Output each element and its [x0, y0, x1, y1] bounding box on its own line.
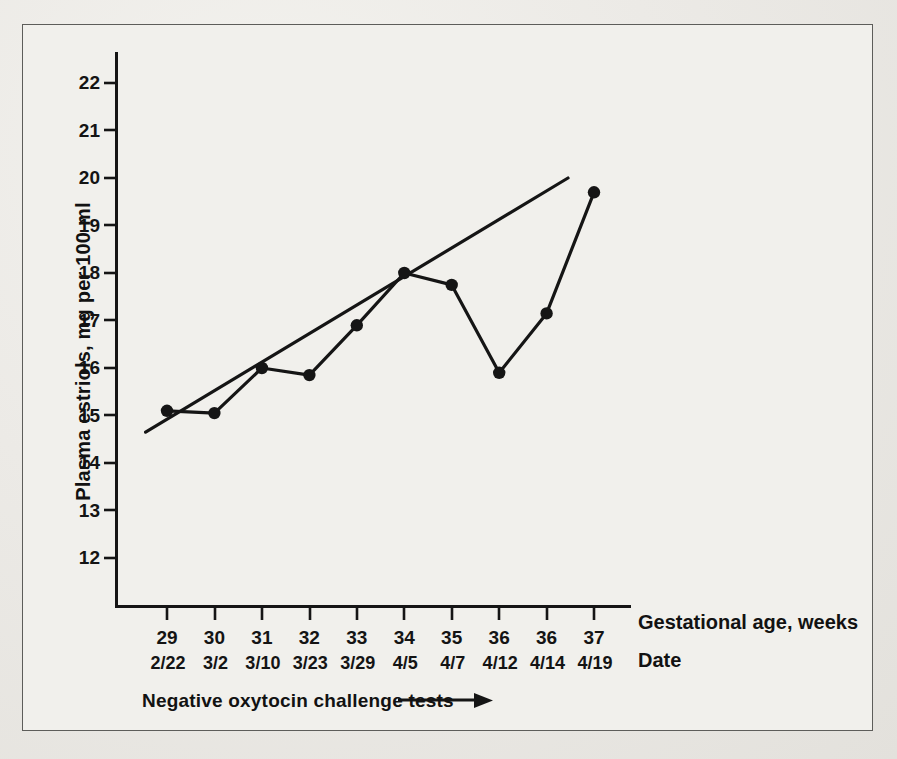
- data-point-marker: [588, 186, 600, 198]
- x-date-label: 4/12: [483, 653, 518, 674]
- data-point-marker: [493, 367, 505, 379]
- x-tick-label: 34: [394, 627, 415, 649]
- y-tick-label: 22: [56, 72, 100, 94]
- x-date-label: 4/7: [440, 653, 465, 674]
- x-tick-label: 33: [346, 627, 367, 649]
- x-date-label: 2/22: [150, 653, 185, 674]
- data-point-marker: [256, 362, 268, 374]
- x-tick-label: 30: [204, 627, 225, 649]
- x-date-label: 3/23: [293, 653, 328, 674]
- x-axis-title: Gestational age, weeks: [638, 611, 858, 634]
- x-tick-label: 32: [299, 627, 320, 649]
- x-tick-label: 35: [441, 627, 462, 649]
- x-tick-label: 31: [251, 627, 272, 649]
- x-tick-label: 29: [156, 627, 177, 649]
- data-point-marker: [398, 267, 410, 279]
- y-tick-label: 12: [56, 547, 100, 569]
- x-date-label: 3/2: [203, 653, 228, 674]
- data-point-marker: [208, 407, 220, 419]
- data-point-marker: [446, 279, 458, 291]
- x-date-label: 4/14: [530, 653, 565, 674]
- x-date-label: 3/10: [245, 653, 280, 674]
- date-axis-title: Date: [638, 649, 681, 672]
- x-date-label: 3/29: [340, 653, 375, 674]
- x-tick-label: 36: [489, 627, 510, 649]
- x-tick-label: 37: [583, 627, 604, 649]
- data-point-marker: [303, 369, 315, 381]
- y-tick-label: 21: [56, 120, 100, 142]
- figure-page: 2221201918171615141312 Plasma estriols, …: [0, 0, 897, 759]
- x-tick-label: 36: [536, 627, 557, 649]
- x-date-label: 4/19: [578, 653, 613, 674]
- trend-line: [146, 178, 568, 432]
- x-date-label: 4/5: [393, 653, 418, 674]
- data-point-marker: [540, 307, 552, 319]
- data-point-marker: [161, 405, 173, 417]
- data-point-marker: [351, 319, 363, 331]
- oxytocin-test-annotation: Negative oxytocin challenge tests: [142, 690, 454, 712]
- y-axis-title: Plasma estriols, mg per 100 ml: [72, 187, 95, 517]
